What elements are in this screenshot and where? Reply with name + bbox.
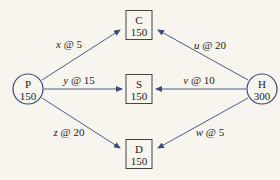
edge-cost: 10 bbox=[204, 74, 216, 86]
node-label: D bbox=[135, 143, 143, 155]
edge-cost: 5 bbox=[219, 126, 225, 138]
edge-label: y @ 15 bbox=[62, 74, 95, 86]
arrow-line bbox=[158, 30, 248, 80]
edge-at-sign: @ bbox=[58, 126, 74, 138]
node-label: S bbox=[136, 78, 142, 90]
node-value: 150 bbox=[131, 90, 148, 102]
edge-label: u @ 20 bbox=[194, 39, 227, 51]
edge-cost: 15 bbox=[84, 74, 96, 86]
node-label: C bbox=[135, 14, 142, 26]
node-value: 300 bbox=[254, 90, 271, 102]
edge-p-to-d: z @ 20 bbox=[42, 98, 120, 148]
edge-h-to-c: u @ 20 bbox=[158, 30, 248, 80]
node-value: 150 bbox=[20, 90, 37, 102]
edge-label: w @ 5 bbox=[196, 126, 225, 138]
edge-p-to-c: x @ 5 bbox=[42, 30, 120, 80]
node-value: 150 bbox=[131, 155, 148, 167]
node-s: S150 bbox=[126, 75, 152, 104]
node-d: D150 bbox=[126, 140, 152, 169]
edge-label: x @ 5 bbox=[55, 38, 83, 50]
edge-at-sign: @ bbox=[61, 38, 77, 50]
edge-at-sign: @ bbox=[188, 74, 204, 86]
arrow-line bbox=[42, 98, 120, 148]
node-c: C150 bbox=[126, 11, 152, 40]
edge-h-to-s: v @ 10 bbox=[156, 74, 246, 89]
edge-label: z @ 20 bbox=[53, 126, 85, 138]
node-label: P bbox=[25, 78, 31, 90]
nodes: P150C150S150D150H300 bbox=[13, 11, 277, 169]
edge-cost: 20 bbox=[215, 39, 227, 51]
edge-p-to-s: y @ 15 bbox=[44, 74, 122, 89]
edge-label: v @ 10 bbox=[183, 74, 215, 86]
edge-at-sign: @ bbox=[203, 126, 219, 138]
transport-network-diagram: x @ 5y @ 15z @ 20u @ 20v @ 10w @ 5 P150C… bbox=[0, 0, 280, 180]
node-value: 150 bbox=[131, 26, 148, 38]
edge-h-to-d: w @ 5 bbox=[158, 98, 248, 148]
edge-cost: 5 bbox=[77, 38, 83, 50]
edge-at-sign: @ bbox=[199, 39, 215, 51]
edge-at-sign: @ bbox=[68, 74, 84, 86]
node-label: H bbox=[258, 78, 266, 90]
arrow-line bbox=[158, 98, 248, 148]
edge-cost: 20 bbox=[73, 126, 85, 138]
node-h: H300 bbox=[247, 74, 277, 104]
node-p: P150 bbox=[13, 74, 43, 104]
